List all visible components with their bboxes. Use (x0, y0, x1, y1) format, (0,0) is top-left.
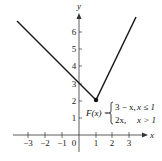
case-1-expr: 3 − x, (115, 102, 136, 112)
y-tick-label: 1 (72, 113, 77, 123)
y-ticks (79, 32, 82, 118)
axes (13, 18, 144, 152)
y-axis-label: y (76, 1, 81, 11)
x-tick-label: −3 (23, 138, 33, 148)
left-branch-line (17, 21, 96, 100)
x-axis-arrow-icon (142, 133, 148, 138)
function-annotation: F(x) = 3 − x, x ≤ 1 2x, x > 1 (85, 102, 156, 125)
y-axis-arrow-icon (77, 13, 82, 19)
brace-icon (109, 102, 113, 124)
y-tick-label: 4 (72, 61, 77, 71)
x-tick-label: 0 (72, 138, 77, 148)
x-tick-labels: −3 −2 −1 0 1 2 3 (23, 138, 132, 148)
y-tick-labels: 1 2 3 4 5 6 (72, 27, 77, 123)
x-tick-label: −1 (57, 138, 67, 148)
y-tick-label: 2 (72, 96, 77, 106)
x-axis-label: x (149, 130, 154, 140)
vertex-point (94, 98, 98, 102)
x-tick-label: 1 (94, 138, 99, 148)
case-2-cond: x > 1 (136, 115, 156, 125)
x-tick-label: 2 (110, 138, 115, 148)
right-branch-line (96, 17, 136, 100)
y-tick-label: 6 (72, 27, 77, 37)
y-tick-label: 5 (72, 44, 77, 54)
x-tick-label: −2 (40, 138, 50, 148)
x-tick-label: 3 (127, 138, 132, 148)
case-2-expr: 2x, (115, 115, 126, 125)
case-1-cond: x ≤ 1 (136, 102, 155, 112)
function-graph: x y −3 −2 −1 0 1 2 3 1 2 3 4 5 6 (0, 0, 162, 161)
annotation-lhs: F(x) = (85, 108, 110, 118)
